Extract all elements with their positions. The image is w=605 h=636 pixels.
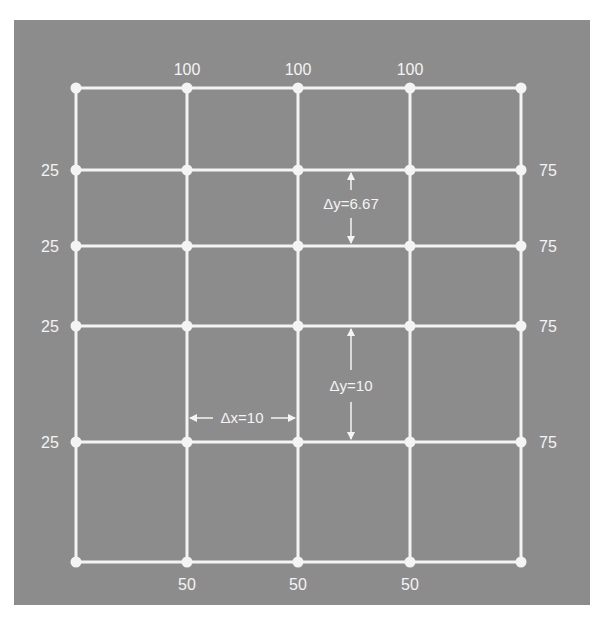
grid-node bbox=[293, 557, 304, 568]
left-boundary-label: 25 bbox=[41, 162, 59, 179]
grid-node bbox=[516, 83, 527, 94]
grid-node bbox=[71, 83, 82, 94]
grid-node bbox=[182, 321, 193, 332]
left-boundary-label: 25 bbox=[41, 434, 59, 451]
right-boundary-label: 75 bbox=[539, 162, 557, 179]
grid-node bbox=[405, 241, 416, 252]
grid-node bbox=[405, 437, 416, 448]
dy-small-label: Δy=6.67 bbox=[323, 195, 378, 212]
top-boundary-label: 100 bbox=[285, 61, 312, 78]
grid-node bbox=[516, 437, 527, 448]
grid-node bbox=[71, 557, 82, 568]
dx-label: Δx=10 bbox=[221, 409, 264, 426]
grid-node bbox=[516, 557, 527, 568]
grid-node bbox=[516, 321, 527, 332]
grid-node bbox=[293, 241, 304, 252]
grid-node bbox=[405, 83, 416, 94]
grid-node bbox=[71, 437, 82, 448]
grid-node bbox=[516, 165, 527, 176]
bottom-boundary-label: 50 bbox=[178, 576, 196, 593]
right-boundary-label: 75 bbox=[539, 434, 557, 451]
grid-node bbox=[293, 437, 304, 448]
grid-node bbox=[516, 241, 527, 252]
grid-node bbox=[293, 83, 304, 94]
grid-node bbox=[71, 165, 82, 176]
grid-node bbox=[182, 437, 193, 448]
grid-node bbox=[293, 321, 304, 332]
bottom-boundary-label: 50 bbox=[289, 576, 307, 593]
grid-node bbox=[71, 321, 82, 332]
grid-node bbox=[405, 165, 416, 176]
grid-node bbox=[182, 557, 193, 568]
grid-node bbox=[293, 165, 304, 176]
grid-node bbox=[182, 83, 193, 94]
right-boundary-label: 75 bbox=[539, 238, 557, 255]
top-boundary-label: 100 bbox=[174, 61, 201, 78]
grid-diagram: 100 100 100 50 50 50 25 25 25 25 75 75 7… bbox=[0, 0, 605, 636]
grid-node bbox=[405, 557, 416, 568]
left-boundary-label: 25 bbox=[41, 318, 59, 335]
right-boundary-label: 75 bbox=[539, 318, 557, 335]
dy-large-label: Δy=10 bbox=[330, 377, 373, 394]
grid-node bbox=[71, 241, 82, 252]
top-boundary-label: 100 bbox=[397, 61, 424, 78]
bottom-boundary-label: 50 bbox=[401, 576, 419, 593]
grid-node bbox=[182, 241, 193, 252]
grid-node bbox=[182, 165, 193, 176]
left-boundary-label: 25 bbox=[41, 238, 59, 255]
grid-node bbox=[405, 321, 416, 332]
